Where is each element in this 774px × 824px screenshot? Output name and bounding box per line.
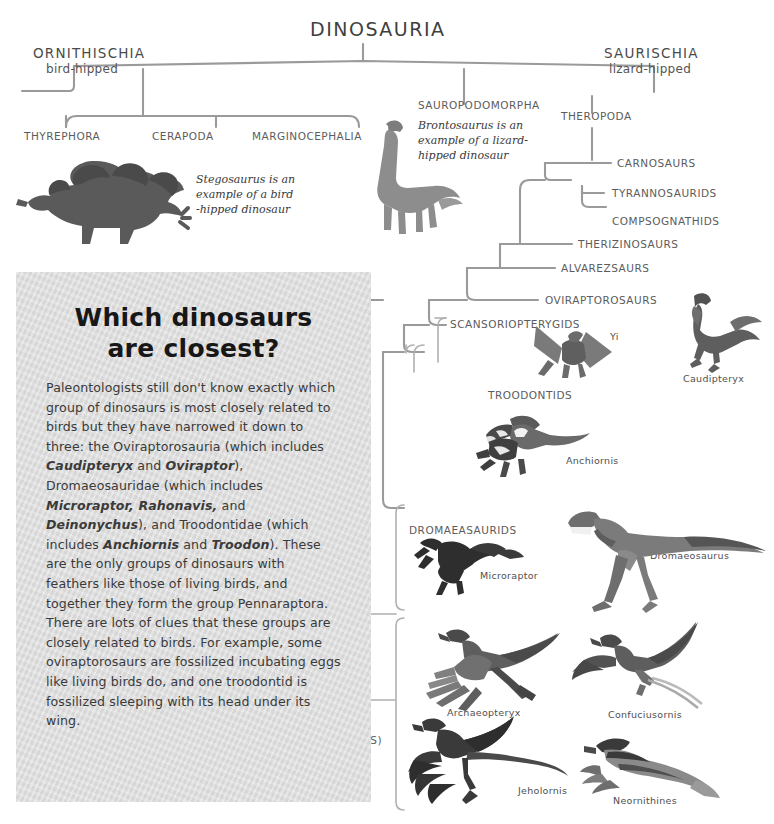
info-panel: Which dinosaurs are closest? Paleontolog… [16,272,371,802]
info-panel-title-line2: are closest? [46,333,341,364]
jeholornis-illustration [408,712,578,808]
label-oviraptorosaurs: OVIRAPTOROSAURS [545,294,657,306]
confuciusornis-illustration [570,620,720,712]
neornithines-illustration [578,730,728,810]
label-saurischia: SAURISCHIA [604,45,699,61]
label-compsognathids: COMPSOGNATHIDS [612,215,719,227]
label-theropoda: THEROPODA [561,110,632,122]
yi-illustration [528,318,616,388]
cladogram-canvas: DINOSAURIA ORNITHISCHIA bird-hipped SAUR… [0,0,774,824]
label-marginocephalia: MARGINOCEPHALIA [252,130,362,142]
label-dinosauria: DINOSAURIA [310,18,446,40]
note-stegosaurus-line1: Stegosaurus is an [196,172,346,187]
brontosaurus-illustration [358,116,463,240]
label-alvarezsaurs: ALVAREZSAURS [561,262,649,274]
caption-caudipteryx: Caudipteryx [683,373,744,384]
label-saurischia-sub: lizard-hipped [609,62,691,76]
note-stegosaurus-line3: -hipped dinosaur [196,202,346,217]
microraptor-illustration [414,525,530,597]
label-ornithischia: ORNITHISCHIA [33,45,145,61]
label-cerapoda: CERAPODA [152,130,214,142]
label-sauropodomorpha: SAUROPODOMORPHA [418,99,540,111]
note-stegosaurus: Stegosaurus is an example of a bird -hip… [196,172,346,217]
info-panel-title: Which dinosaurs are closest? [46,302,341,364]
dromaeosaurus-illustration [558,505,770,615]
anchiornis-illustration [470,405,592,481]
label-thyrephora: THYREPHORA [24,130,100,142]
label-therizinosaurs: THERIZINOSAURS [578,238,678,250]
archaeopteryx-illustration [412,625,562,711]
label-tyrannosaurids: TYRANNOSAURIDS [612,187,717,199]
label-troodontids: TROODONTIDS [488,389,572,401]
stegosaurus-illustration [16,152,186,247]
label-ornithischia-sub: bird-hipped [46,62,118,76]
info-panel-title-line1: Which dinosaurs [46,302,341,333]
info-panel-body: Paleontologists still don't know exactly… [46,378,341,731]
note-stegosaurus-line2: example of a bird [196,187,346,202]
label-carnosaurs: CARNOSAURS [617,157,696,169]
caudipteryx-illustration [668,290,764,374]
